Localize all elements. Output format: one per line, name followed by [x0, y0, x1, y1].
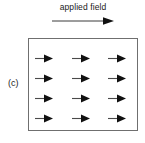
domain-arrow-r4c2	[72, 114, 90, 123]
domain-arrow-r3c2	[72, 94, 90, 103]
domain-arrow-r1c1	[35, 54, 53, 63]
domain-arrow-r2c2	[72, 74, 90, 83]
domain-arrow-r4c1	[35, 114, 53, 123]
domain-arrow-r3c3	[108, 94, 126, 103]
domain-arrow-r2c1	[35, 74, 53, 83]
domain-arrow-r3c1	[35, 94, 53, 103]
domain-arrow-r1c3	[108, 54, 126, 63]
domain-arrow-r2c3	[108, 74, 126, 83]
panel-label-c: (c)	[8, 78, 19, 89]
figure-panel-c: applied field (c)	[0, 0, 145, 143]
applied-field-label: applied field	[50, 2, 116, 13]
applied-field-arrow-icon	[52, 15, 114, 27]
domain-arrow-r1c2	[72, 54, 90, 63]
domain-arrow-r4c3	[108, 114, 126, 123]
